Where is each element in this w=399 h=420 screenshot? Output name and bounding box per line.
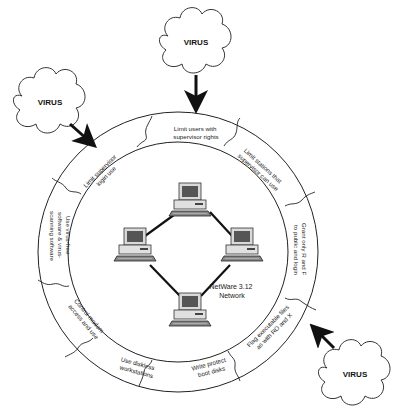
virus-threat-upper-left: VIRUS [13, 68, 88, 140]
segment-label-modem: Control modem access and use [67, 297, 107, 340]
segment-label-virus-free: Use virus-free software & virus- scannin… [49, 211, 72, 261]
network-label: NetWare 3.12 Network [210, 283, 255, 299]
diagram-canvas: Limit users with supervisor rights Limit… [0, 0, 399, 420]
ring-dividers [38, 116, 316, 386]
segment-label-grant-rights: Grant only R and F to public and login [293, 223, 308, 277]
virus-threat-lower-right: VIRUS [318, 332, 390, 405]
protection-ring [38, 112, 318, 392]
segment-label-supervisor-rights: Limit users with supervisor rights [173, 125, 218, 140]
virus-label: VIRUS [38, 98, 63, 107]
segment-label-supervisor-stations: Limit stations that supervisor can use [237, 146, 286, 192]
workstation-top [169, 183, 211, 216]
segment-label-write-protect: Write protect boot disks [191, 355, 230, 379]
virus-threat-top: VIRUS [159, 8, 231, 102]
workstation-right [221, 228, 263, 261]
arrow-icon [318, 332, 334, 348]
virus-label: VIRUS [184, 38, 209, 47]
arrow-icon [70, 124, 88, 140]
virus-label: VIRUS [343, 370, 368, 379]
workstation-bottom [169, 293, 211, 326]
